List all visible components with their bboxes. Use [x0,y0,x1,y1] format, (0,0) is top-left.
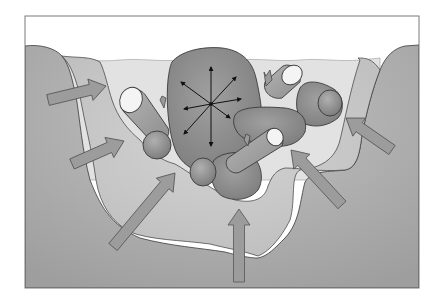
diagram-stage [0,0,441,305]
radial-center-dot [209,102,213,106]
valley-cross-section-diagram [0,0,441,305]
left-knob [143,131,171,159]
bottom-knob [190,158,216,186]
right-knob [318,90,342,116]
